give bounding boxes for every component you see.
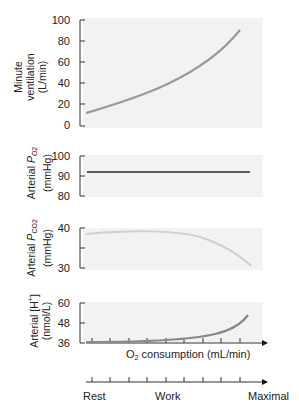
h-y-ticks xyxy=(80,303,85,343)
work-x-ticks xyxy=(92,377,240,382)
o2-x-axis-label: O2 consumption (mL/min) xyxy=(126,348,250,361)
pco2-y-ticks xyxy=(80,228,85,268)
o2-axis-arrow-icon xyxy=(262,340,268,346)
ventilation-curve xyxy=(86,30,240,113)
h-curve xyxy=(86,315,248,342)
o2-label-prefix: O xyxy=(126,348,135,360)
ve-y-ticks xyxy=(80,20,85,126)
pco2-curve xyxy=(86,231,251,266)
po2-y-ticks xyxy=(80,156,85,196)
o2-label-rest: consumption (mL/min) xyxy=(138,348,250,360)
work-label-rest: Rest xyxy=(83,390,106,402)
work-axis-arrow-icon xyxy=(262,379,268,385)
work-label-work: Work xyxy=(155,390,180,402)
work-label-maximal: Maximal xyxy=(248,390,289,402)
